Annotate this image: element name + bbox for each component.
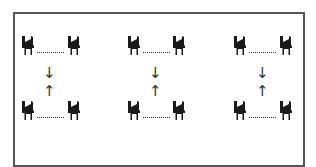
chair-icon — [67, 101, 80, 120]
dotted-connector — [143, 117, 170, 118]
dotted-connector — [37, 117, 64, 118]
chair-group-3: ↓ ↑ — [212, 0, 292, 167]
chair-icon — [21, 101, 34, 120]
chair-group-1: ↓ ↑ — [0, 0, 80, 167]
arrow-up-icon: ↑ — [256, 84, 268, 99]
chair-icon — [279, 101, 292, 120]
chair-icon — [279, 36, 292, 55]
arrow-up-icon: ↑ — [43, 84, 55, 99]
chair-icon — [21, 36, 34, 55]
dotted-connector — [37, 52, 64, 53]
dotted-connector — [249, 52, 276, 53]
chair-icon — [233, 36, 246, 55]
arrow-up-icon: ↑ — [149, 84, 161, 99]
chair-icon — [172, 36, 185, 55]
chair-group-2: ↓ ↑ — [106, 0, 186, 167]
chair-icon — [233, 101, 246, 120]
chair-icon — [172, 101, 185, 120]
chair-icon — [127, 36, 140, 55]
arrow-down-icon: ↓ — [149, 66, 161, 81]
arrow-down-icon: ↓ — [43, 66, 55, 81]
dotted-connector — [249, 117, 276, 118]
chair-icon — [67, 36, 80, 55]
arrow-down-icon: ↓ — [256, 66, 268, 81]
dotted-connector — [143, 52, 170, 53]
chair-icon — [127, 101, 140, 120]
